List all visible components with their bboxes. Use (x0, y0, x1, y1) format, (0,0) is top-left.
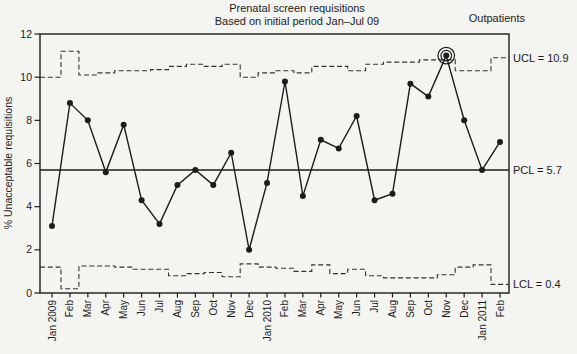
y-axis-tick-label: 8 (26, 114, 32, 126)
data-series-line (52, 56, 500, 250)
x-axis-tick-label: Oct (423, 300, 434, 316)
x-axis-tick-label: Jun (136, 300, 147, 316)
x-axis-tick-label: Sep (190, 300, 201, 318)
data-point-marker (497, 139, 503, 145)
data-point-marker (121, 122, 127, 128)
data-point-marker (67, 100, 73, 106)
x-axis-tick-label: Oct (208, 300, 219, 316)
y-axis-tick-label: 6 (26, 157, 32, 169)
x-axis-tick-label: Mar (82, 299, 93, 317)
data-point-marker (461, 117, 467, 123)
x-axis-tick-label: Feb (495, 300, 506, 318)
y-axis-title: % Unacceptable requisitions (2, 97, 14, 230)
y-axis-tick-label: 12 (20, 28, 32, 40)
data-point-marker (139, 197, 145, 203)
data-point-marker (210, 182, 216, 188)
data-point-marker (318, 137, 324, 143)
x-axis-tick-label: Jul (154, 300, 165, 313)
data-point-marker (246, 247, 252, 253)
x-axis-tick-label: Aug (172, 300, 183, 318)
data-point-marker (372, 197, 378, 203)
x-axis-tick-label: Apr (100, 299, 111, 315)
x-axis-tick-label: Jan 2009 (47, 300, 58, 342)
data-point-marker (425, 94, 431, 100)
x-axis-tick-label: Dec (244, 300, 255, 318)
x-axis-tick-label: Nov (441, 300, 452, 318)
data-point-marker (49, 223, 55, 229)
data-point-marker (300, 193, 306, 199)
y-axis-tick-label: 10 (20, 71, 32, 83)
x-axis-tick-label: Jun (351, 300, 362, 316)
x-axis-tick-label: May (118, 300, 129, 319)
data-point-marker (228, 150, 234, 156)
data-point-marker (354, 113, 360, 119)
x-axis-tick-label: Nov (226, 300, 237, 318)
x-axis-tick-label: Mar (297, 299, 308, 317)
data-point-marker (336, 145, 342, 151)
data-point-marker (85, 117, 91, 123)
data-point-marker (174, 182, 180, 188)
y-axis-tick-label: 0 (26, 287, 32, 299)
data-point-marker (443, 53, 449, 59)
x-axis-tick-label: Jan 2011 (477, 300, 488, 341)
ucl-value-label: UCL = 10.9 (513, 52, 569, 64)
data-point-marker (389, 191, 395, 197)
x-axis-tick-label: Feb (279, 300, 290, 318)
y-axis-tick-label: 2 (26, 243, 32, 255)
data-point-marker (157, 221, 163, 227)
x-axis-tick-label: Aug (387, 300, 398, 318)
x-axis-tick-label: Feb (64, 300, 75, 318)
pcl-value-label: PCL = 5.7 (513, 164, 562, 176)
chart-plot-canvas: 024681012Jan 2009FebMarAprMayJunJulAugSe… (0, 0, 577, 354)
lcl-value-label: LCL = 0.4 (513, 278, 561, 290)
x-axis-tick-label: Sep (405, 300, 416, 318)
data-point-marker (282, 78, 288, 84)
x-axis-tick-label: Jan 2010 (262, 300, 273, 342)
x-axis-tick-label: Jul (369, 300, 380, 313)
lcl-step-line (40, 264, 509, 289)
control-chart-figure: Prenatal screen requisitions Based on in… (0, 0, 577, 354)
data-point-marker (407, 81, 413, 87)
x-axis-tick-label: Apr (315, 299, 326, 315)
x-axis-tick-label: Dec (459, 300, 470, 318)
y-axis-tick-label: 4 (26, 200, 32, 212)
x-axis-tick-label: May (333, 300, 344, 319)
data-point-marker (264, 180, 270, 186)
